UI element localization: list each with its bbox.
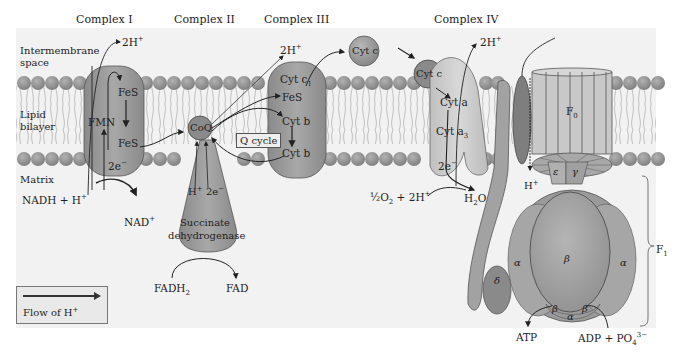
complex-1-title: Complex I xyxy=(76,14,133,25)
legend-box: Flow of H+ xyxy=(16,286,108,324)
f1-label: F1 xyxy=(656,244,668,258)
complex-2-title: Complex II xyxy=(174,14,235,25)
atp-label: ATP xyxy=(516,332,537,343)
h-in-label: H+ xyxy=(524,180,539,191)
lipid-label-2: bilayer xyxy=(20,122,55,132)
beta-bottom-right-label: β xyxy=(582,304,588,314)
a-subunit xyxy=(513,76,531,164)
c2-h: H+ xyxy=(188,186,203,197)
cyt-a-label: Cyt a xyxy=(440,97,468,108)
coq-label: CoQ xyxy=(190,123,212,133)
right-arrow-icon xyxy=(23,295,95,297)
c4-2h: 2H+ xyxy=(480,36,502,47)
complex-3-title: Complex III xyxy=(264,14,329,25)
q-cycle-label: Q cycle xyxy=(236,133,281,148)
matrix-label: Matrix xyxy=(20,175,54,185)
legend-label: Flow of H+ xyxy=(23,306,78,318)
c3-2h: 2H+ xyxy=(280,44,302,55)
alpha-right-label: α xyxy=(620,258,627,268)
beta-center-label: β xyxy=(564,254,570,264)
delta-label: δ xyxy=(494,276,500,286)
cyt-c-free-label: Cyt c xyxy=(352,46,378,56)
c4-2e: 2e− xyxy=(438,160,457,171)
oxygen-label: ½O2 + 2H+ xyxy=(370,191,430,206)
cyt-b-bottom-label: Cyt b xyxy=(282,148,310,159)
cyt-b-top-label: Cyt b xyxy=(282,116,310,127)
cyt-c-bound-label: Cyt c xyxy=(416,69,442,79)
c2-2e: 2e− xyxy=(206,186,224,197)
epsilon-label: ε xyxy=(553,167,558,177)
cyt-a3-label: Cyt a3 xyxy=(436,126,468,140)
c3-fes-label: FeS xyxy=(282,92,302,103)
nad-label: NAD+ xyxy=(124,216,155,227)
delta-subunit xyxy=(483,266,511,314)
c1-fmn: FMN xyxy=(88,117,115,128)
adp-label: ADP + PO43− xyxy=(578,332,647,347)
intermembrane-label-1: Intermembrane xyxy=(20,46,100,56)
dehydrogenase-label: dehydrogenase xyxy=(168,231,245,241)
cyt-c1-label: Cyt c1 xyxy=(280,74,312,88)
alpha-bottom-label: α xyxy=(567,312,574,322)
lipid-label-1: Lipid xyxy=(20,110,46,120)
c1-2h: 2H+ xyxy=(122,36,144,47)
etc-diagram: Complex I Complex II Complex III Complex… xyxy=(0,0,683,362)
f0-label: F0 xyxy=(566,106,578,120)
fadh2-label: FADH2 xyxy=(154,283,190,297)
beta-bottom-left-label: β xyxy=(552,304,558,314)
intermembrane-label-2: space xyxy=(20,58,49,68)
fad-label: FAD xyxy=(226,283,248,294)
c1-fes-bottom: FeS xyxy=(118,138,138,149)
c1-2e: 2e− xyxy=(108,160,127,171)
gamma-label: γ xyxy=(572,167,578,177)
alpha-left-label: α xyxy=(514,258,521,268)
succinate-label: Succinate xyxy=(180,218,230,228)
water-label: H2O xyxy=(464,193,486,207)
nadh-label: NADH + H+ xyxy=(22,194,87,205)
c1-fes-top: FeS xyxy=(118,87,138,98)
complex-4-title: Complex IV xyxy=(434,14,499,25)
